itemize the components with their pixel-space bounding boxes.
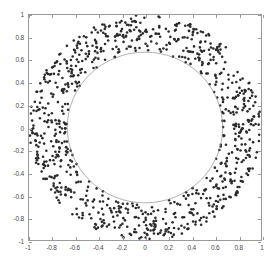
scatter-point [247, 88, 250, 91]
scatter-point [194, 223, 197, 226]
scatter-point [199, 41, 202, 44]
scatter-point [134, 49, 137, 52]
scatter-point [187, 194, 190, 197]
scatter-point [254, 123, 257, 126]
scatter-point [71, 213, 74, 216]
scatter-point [128, 232, 131, 235]
scatter-point [60, 193, 63, 196]
x-axis-tick-label: -0.2 [116, 244, 126, 251]
x-axis-tick [240, 15, 241, 18]
y-axis-tick [258, 83, 261, 84]
scatter-point [192, 208, 195, 211]
scatter-point [221, 207, 224, 210]
scatter-point [115, 21, 118, 24]
scatter-point [248, 149, 251, 152]
scatter-point [205, 220, 208, 223]
scatter-point [205, 72, 208, 75]
scatter-point [71, 82, 74, 85]
scatter-point [133, 231, 136, 234]
scatter-point [141, 32, 144, 35]
scatter-point [129, 45, 132, 48]
scatter-point [94, 56, 97, 59]
scatter-point [215, 205, 218, 208]
scatter-point [239, 149, 242, 152]
scatter-point [178, 55, 181, 58]
scatter-point [173, 213, 176, 216]
scatter-point [187, 204, 190, 207]
scatter-point [169, 202, 172, 205]
scatter-point [191, 193, 194, 196]
y-axis-tick [29, 219, 32, 220]
scatter-point [58, 151, 61, 154]
scatter-point [61, 127, 64, 130]
scatter-point [240, 137, 243, 140]
scatter-point [81, 60, 84, 63]
x-axis-tick [169, 237, 170, 240]
scatter-point [76, 85, 79, 88]
scatter-point [88, 213, 91, 216]
scatter-point [208, 204, 211, 207]
scatter-point [202, 216, 205, 219]
scatter-point [39, 117, 42, 120]
scatter-point [130, 17, 133, 20]
y-axis-tick [29, 38, 32, 39]
scatter-point [31, 132, 34, 135]
scatter-point [108, 223, 111, 226]
scatter-point [115, 25, 118, 28]
scatter-point [47, 102, 50, 105]
scatter-point [169, 36, 172, 39]
scatter-point [212, 186, 215, 189]
scatter-point [221, 180, 224, 183]
scatter-point [138, 224, 141, 227]
scatter-point [224, 162, 227, 165]
scatter-point [144, 211, 147, 214]
scatter-point [119, 21, 122, 24]
x-axis-tick-label: 1 [260, 244, 263, 251]
scatter-point [134, 216, 137, 219]
scatter-point [118, 50, 121, 53]
scatter-point [45, 69, 48, 72]
scatter-point [41, 89, 44, 92]
scatter-point [48, 175, 51, 178]
scatter-point [75, 208, 78, 211]
scatter-point [59, 182, 62, 185]
scatter-point [64, 83, 67, 86]
scatter-point [243, 97, 246, 100]
y-axis-tick [258, 242, 261, 243]
scatter-point [47, 126, 50, 129]
scatter-point [202, 193, 205, 196]
scatter-point [248, 119, 251, 122]
scatter-point [152, 210, 155, 213]
scatter-point [131, 39, 134, 42]
scatter-point [234, 139, 237, 142]
scatter-point [258, 134, 261, 137]
scatter-point [104, 43, 107, 46]
scatter-point [187, 58, 190, 61]
y-axis-tick [258, 106, 261, 107]
scatter-point [57, 73, 60, 76]
scatter-point [124, 219, 127, 222]
scatter-point [94, 50, 97, 53]
scatter-point [222, 135, 225, 138]
scatter-point [76, 82, 79, 85]
scatter-point [73, 39, 76, 42]
scatter-point [229, 173, 232, 176]
scatter-point [247, 174, 250, 177]
x-axis-tick [76, 237, 77, 240]
scatter-point [51, 66, 54, 69]
scatter-point [214, 166, 217, 169]
inner-circle-outline [67, 52, 222, 203]
scatter-point [57, 101, 60, 104]
scatter-point [55, 122, 58, 125]
scatter-point [158, 25, 161, 28]
scatter-point [209, 197, 212, 200]
scatter-point [85, 204, 88, 207]
scatter-point [164, 230, 167, 233]
scatter-point [55, 196, 58, 199]
y-axis-tick [29, 242, 32, 243]
scatter-point [254, 101, 257, 104]
scatter-point [242, 159, 245, 162]
scatter-point [49, 159, 52, 162]
scatter-point [239, 92, 242, 95]
scatter-point [67, 86, 70, 89]
